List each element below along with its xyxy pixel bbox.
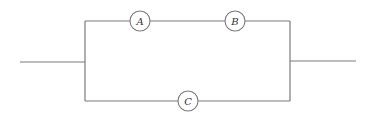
component-b: B	[225, 11, 245, 31]
component-a: A	[130, 11, 150, 31]
component-c-label: C	[184, 96, 192, 107]
component-b-label: B	[230, 16, 238, 27]
component-a-label: A	[135, 16, 143, 27]
circuit-diagram: A B C	[0, 0, 375, 119]
component-c: C	[178, 91, 198, 111]
